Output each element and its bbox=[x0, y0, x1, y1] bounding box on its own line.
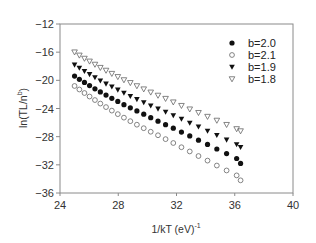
legend-item: b=2.1 bbox=[230, 49, 276, 61]
data-point bbox=[155, 119, 160, 124]
data-point bbox=[205, 158, 210, 163]
data-point bbox=[128, 94, 134, 99]
data-point bbox=[121, 91, 127, 96]
x-axis-label-superscript: -1 bbox=[194, 222, 200, 229]
y-tick-label: −36 bbox=[35, 187, 54, 199]
data-point bbox=[214, 118, 220, 123]
data-point bbox=[141, 112, 146, 117]
y-tick-label: −24 bbox=[35, 103, 54, 115]
data-point bbox=[238, 129, 244, 134]
data-point bbox=[72, 50, 78, 55]
legend-item: b=1.9 bbox=[229, 61, 276, 73]
data-point bbox=[214, 163, 219, 168]
y-tick-label: −16 bbox=[35, 46, 54, 58]
data-point bbox=[109, 84, 115, 89]
data-point bbox=[87, 59, 93, 64]
data-point bbox=[77, 53, 83, 58]
x-axis-label: 1/kT (eV)-1 bbox=[151, 222, 200, 235]
y-axis-label: ln(TL/nb) bbox=[16, 88, 29, 128]
data-point bbox=[171, 141, 176, 146]
data-point bbox=[134, 84, 140, 89]
data-point bbox=[196, 138, 201, 143]
data-point bbox=[141, 100, 147, 105]
series-b-1-9 bbox=[72, 63, 244, 150]
data-point bbox=[170, 100, 176, 105]
data-point bbox=[82, 69, 88, 74]
data-point bbox=[171, 126, 176, 131]
data-point bbox=[187, 133, 192, 138]
data-point bbox=[92, 75, 98, 80]
data-point bbox=[163, 96, 169, 101]
data-point bbox=[214, 133, 220, 138]
data-point bbox=[115, 88, 121, 93]
data-points bbox=[72, 50, 244, 183]
x-axis-ticks: 2428323640 bbox=[54, 193, 299, 211]
data-point bbox=[77, 66, 83, 71]
filled-triangle-down-icon bbox=[229, 65, 235, 70]
data-point bbox=[224, 168, 229, 173]
data-point bbox=[134, 97, 140, 102]
data-point bbox=[205, 129, 211, 134]
data-point bbox=[128, 81, 134, 86]
data-point bbox=[98, 89, 103, 94]
data-point bbox=[109, 96, 114, 101]
data-point bbox=[87, 94, 92, 99]
data-point bbox=[103, 82, 109, 87]
legend-label: b=1.8 bbox=[248, 73, 276, 85]
data-point bbox=[155, 107, 161, 112]
legend-item: b=1.8 bbox=[229, 73, 276, 85]
data-point bbox=[103, 68, 109, 73]
data-point bbox=[187, 149, 192, 154]
data-point bbox=[93, 98, 98, 103]
y-tick-label: −20 bbox=[35, 74, 54, 86]
x-tick-label: 28 bbox=[112, 199, 124, 211]
data-point bbox=[72, 84, 77, 89]
data-point bbox=[234, 156, 239, 161]
data-point bbox=[214, 146, 219, 151]
x-tick-label: 36 bbox=[229, 199, 241, 211]
data-point bbox=[224, 151, 229, 156]
data-point bbox=[121, 102, 126, 107]
data-point bbox=[224, 122, 230, 127]
legend-label: b=1.9 bbox=[248, 61, 276, 73]
data-point bbox=[128, 105, 133, 110]
data-point bbox=[238, 161, 243, 166]
data-point bbox=[179, 129, 184, 134]
data-point bbox=[92, 62, 98, 67]
y-tick-label: −12 bbox=[35, 18, 54, 30]
data-point bbox=[115, 99, 120, 104]
data-point bbox=[98, 101, 103, 106]
data-point bbox=[87, 83, 92, 88]
data-point bbox=[196, 154, 201, 159]
data-point bbox=[103, 93, 108, 98]
scatter-chart: −12−16−20−24−28−32−36 2428323640 b=2.0b=… bbox=[0, 0, 316, 243]
data-point bbox=[77, 77, 82, 82]
data-point bbox=[196, 125, 202, 130]
data-point bbox=[156, 133, 161, 138]
data-point bbox=[98, 78, 104, 83]
legend-item: b=2.0 bbox=[229, 37, 275, 49]
data-point bbox=[141, 87, 147, 92]
y-tick-label: −28 bbox=[35, 131, 54, 143]
data-point bbox=[205, 114, 211, 119]
data-point bbox=[134, 108, 139, 113]
data-point bbox=[148, 129, 153, 134]
data-point bbox=[128, 119, 133, 124]
legend: b=2.0b=2.1b=1.9b=1.8 bbox=[229, 37, 276, 85]
data-point bbox=[163, 110, 169, 115]
data-point bbox=[238, 178, 243, 183]
x-tick-label: 32 bbox=[170, 199, 182, 211]
data-point bbox=[196, 110, 202, 115]
data-point bbox=[179, 117, 185, 122]
data-point bbox=[170, 113, 176, 118]
open-triangle-down-icon bbox=[229, 77, 235, 82]
y-tick-label: −32 bbox=[35, 159, 54, 171]
series-b-2-0 bbox=[72, 74, 243, 167]
data-point bbox=[82, 80, 87, 85]
data-point bbox=[224, 138, 230, 143]
data-point bbox=[238, 145, 244, 150]
data-point bbox=[141, 126, 146, 131]
data-point bbox=[179, 145, 184, 150]
data-point bbox=[72, 74, 77, 79]
data-point bbox=[115, 75, 121, 80]
